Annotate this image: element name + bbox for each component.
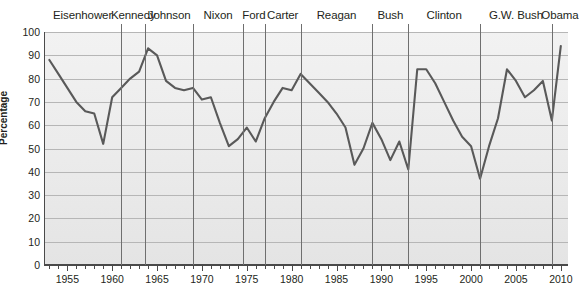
president-term-divider bbox=[408, 24, 409, 265]
x-axis-minor-tick bbox=[283, 265, 284, 269]
x-axis-minor-tick bbox=[58, 265, 59, 269]
y-axis-tick-label: 60 bbox=[28, 119, 40, 131]
x-axis-minor-tick bbox=[256, 265, 257, 269]
x-axis-minor-tick bbox=[94, 265, 95, 269]
x-axis-minor-tick bbox=[220, 265, 221, 269]
x-axis-major-tick bbox=[202, 265, 203, 271]
president-term-label: Johnson bbox=[148, 9, 191, 21]
x-axis-minor-tick bbox=[265, 265, 266, 269]
x-axis-major-tick bbox=[381, 265, 382, 271]
x-axis-tick-label: 1955 bbox=[56, 273, 79, 285]
y-axis-tick-label: 90 bbox=[28, 49, 40, 61]
x-axis-minor-tick bbox=[543, 265, 544, 269]
president-term-label: Bush bbox=[377, 9, 403, 21]
x-axis-minor-tick bbox=[130, 265, 131, 269]
x-axis-minor-tick bbox=[435, 265, 436, 269]
x-axis-major-tick bbox=[337, 265, 338, 271]
y-axis-tick-label: 30 bbox=[28, 189, 40, 201]
x-axis-tick-label: 2010 bbox=[549, 273, 572, 285]
x-axis-major-tick bbox=[157, 265, 158, 271]
x-axis-minor-tick bbox=[193, 265, 194, 269]
x-axis-minor-tick bbox=[175, 265, 176, 269]
x-axis-major-tick bbox=[426, 265, 427, 271]
x-axis-minor-tick bbox=[229, 265, 230, 269]
president-term-label: Obama bbox=[541, 9, 578, 21]
president-term-divider bbox=[372, 24, 373, 265]
x-axis-minor-tick bbox=[310, 265, 311, 269]
x-axis-minor-tick bbox=[417, 265, 418, 269]
x-axis-minor-tick bbox=[390, 265, 391, 269]
x-axis-tick-label: 1990 bbox=[370, 273, 393, 285]
president-term-divider bbox=[301, 24, 302, 265]
x-axis-major-tick bbox=[112, 265, 113, 271]
president-term-divider bbox=[480, 24, 481, 265]
x-axis-minor-tick bbox=[444, 265, 445, 269]
y-axis-tick-label: 50 bbox=[28, 143, 40, 155]
x-axis-minor-tick bbox=[328, 265, 329, 269]
x-axis-minor-tick bbox=[139, 265, 140, 269]
x-axis-minor-tick bbox=[345, 265, 346, 269]
x-axis-minor-tick bbox=[85, 265, 86, 269]
x-axis-minor-tick bbox=[489, 265, 490, 269]
x-axis-minor-tick bbox=[498, 265, 499, 269]
y-axis-tick-label: 70 bbox=[28, 96, 40, 108]
president-term-label: Carter bbox=[267, 9, 298, 21]
president-term-label: Reagan bbox=[317, 9, 357, 21]
president-term-label: G.W. Bush bbox=[489, 9, 543, 21]
x-axis-tick-label: 1965 bbox=[145, 273, 168, 285]
x-axis-major-tick bbox=[471, 265, 472, 271]
x-axis-minor-tick bbox=[552, 265, 553, 269]
x-axis-minor-tick bbox=[76, 265, 77, 269]
president-term-label: Clinton bbox=[427, 9, 462, 21]
x-axis-minor-tick bbox=[525, 265, 526, 269]
y-axis-tick-label: 0 bbox=[34, 259, 40, 271]
x-axis-minor-tick bbox=[480, 265, 481, 269]
x-axis-minor-tick bbox=[166, 265, 167, 269]
x-axis-minor-tick bbox=[274, 265, 275, 269]
president-term-divider bbox=[265, 24, 266, 265]
x-axis-minor-tick bbox=[399, 265, 400, 269]
president-term-label: Ford bbox=[242, 9, 265, 21]
x-axis-major-tick bbox=[561, 265, 562, 271]
x-axis-minor-tick bbox=[49, 265, 50, 269]
x-axis-minor-tick bbox=[372, 265, 373, 269]
x-axis-minor-tick bbox=[408, 265, 409, 269]
y-axis-tick-label: 10 bbox=[28, 236, 40, 248]
x-axis-tick-label: 1975 bbox=[235, 273, 258, 285]
x-axis-tick-label: 1995 bbox=[415, 273, 438, 285]
x-axis-minor-tick bbox=[462, 265, 463, 269]
x-axis-minor-tick bbox=[534, 265, 535, 269]
y-axis-tick-label: 80 bbox=[28, 73, 40, 85]
y-axis-tick-label: 40 bbox=[28, 166, 40, 178]
y-axis-tick-label: 20 bbox=[28, 212, 40, 224]
x-axis-minor-tick bbox=[363, 265, 364, 269]
president-term-divider bbox=[193, 24, 194, 265]
president-term-divider bbox=[243, 24, 244, 265]
x-axis-tick-label: 1960 bbox=[101, 273, 124, 285]
x-axis-tick-label: 1985 bbox=[325, 273, 348, 285]
x-axis-tick-label: 1980 bbox=[280, 273, 303, 285]
x-axis-minor-tick bbox=[238, 265, 239, 269]
president-term-divider bbox=[121, 24, 122, 265]
x-axis-minor-tick bbox=[121, 265, 122, 269]
x-axis-minor-tick bbox=[319, 265, 320, 269]
x-axis-minor-tick bbox=[148, 265, 149, 269]
x-axis-tick-label: 2000 bbox=[459, 273, 482, 285]
president-term-label: Nixon bbox=[204, 9, 233, 21]
x-axis-minor-tick bbox=[103, 265, 104, 269]
x-axis-minor-tick bbox=[507, 265, 508, 269]
president-term-label: Eisenhower bbox=[53, 9, 112, 21]
x-axis-major-tick bbox=[247, 265, 248, 271]
x-axis-tick-label: 2005 bbox=[504, 273, 527, 285]
x-axis-major-tick bbox=[292, 265, 293, 271]
x-axis-tick-label: 1970 bbox=[190, 273, 213, 285]
x-axis-major-tick bbox=[516, 265, 517, 271]
x-axis-minor-tick bbox=[184, 265, 185, 269]
y-axis-tick-label: 100 bbox=[22, 26, 40, 38]
x-axis-minor-tick bbox=[211, 265, 212, 269]
x-axis-minor-tick bbox=[354, 265, 355, 269]
president-term-divider bbox=[145, 24, 146, 265]
x-axis-major-tick bbox=[67, 265, 68, 271]
